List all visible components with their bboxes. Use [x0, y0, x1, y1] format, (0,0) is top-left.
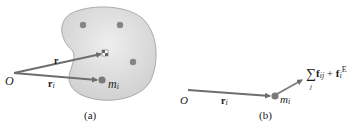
vector-ri-label: ri [48, 79, 55, 89]
origin-label-b: O [180, 95, 188, 106]
vector-ri-subscript-b: i [225, 98, 227, 107]
force-arrow [277, 80, 302, 94]
internal-force-subscript: ij [320, 71, 324, 80]
vector-ri-subscript: i [52, 81, 54, 90]
mass-label-a: mi [108, 78, 119, 90]
mass-letter-b: m [280, 93, 288, 105]
mass-subscript-b: i [288, 97, 290, 106]
caption-b: (b) [259, 110, 272, 121]
plus-sign: + [327, 67, 333, 79]
origin-label-a: O [5, 75, 14, 87]
mass-subscript: i [117, 82, 119, 91]
force-expression: ∑fij + fiE [306, 66, 347, 80]
caption-a: (a) [84, 110, 96, 121]
mass-label-b: mi [280, 94, 290, 105]
particle-dot [130, 59, 136, 65]
center-of-mass-marker [102, 50, 108, 56]
diagram-canvas [0, 0, 356, 132]
sum-symbol: ∑ [306, 66, 316, 81]
external-force-superscript: E [342, 65, 347, 74]
particle-dot [80, 22, 86, 28]
vector-ri-arrow-b [188, 90, 270, 96]
sum-index: j [310, 84, 312, 91]
vector-ri-label-b: ri [221, 96, 228, 106]
mass-letter: m [108, 77, 117, 91]
external-force-letter: f [336, 67, 340, 79]
vector-r-label: r [54, 56, 58, 66]
particle-dot [117, 22, 123, 28]
mass-i-dot [98, 76, 105, 83]
